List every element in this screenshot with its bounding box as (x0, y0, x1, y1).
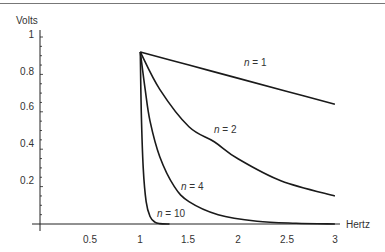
x-tick-label: 0.5 (83, 234, 97, 245)
series-curve-n10 (140, 52, 169, 224)
series-label-n10: n = 10 (157, 208, 186, 219)
series-curve-n2 (140, 52, 335, 196)
y-axis-title: Volts (16, 15, 38, 26)
series-curves (140, 52, 335, 224)
chart-plot: Volts Hertz 0.2 0.4 0.6 0.8 1 0.5 1 1.5 … (0, 0, 385, 252)
series-label-n4: n = 4 (181, 181, 204, 192)
x-tick-label: 2.5 (280, 234, 294, 245)
x-tick-label: 1 (137, 234, 143, 245)
y-tick-label: 0.2 (20, 175, 34, 186)
series-label-n1: n = 1 (244, 57, 267, 68)
y-tick-label: 1 (28, 29, 34, 40)
x-tick-label: 1.5 (181, 234, 195, 245)
y-tick-label: 0.4 (20, 138, 34, 149)
y-tick-label: 0.6 (20, 101, 34, 112)
x-axis-title: Hertz (346, 219, 370, 230)
x-tick-label: 2 (235, 234, 241, 245)
y-tick-label: 0.8 (20, 66, 34, 77)
series-curve-n1 (140, 52, 335, 104)
series-label-n2: n = 2 (214, 124, 237, 135)
x-tick-label: 3 (332, 234, 338, 245)
